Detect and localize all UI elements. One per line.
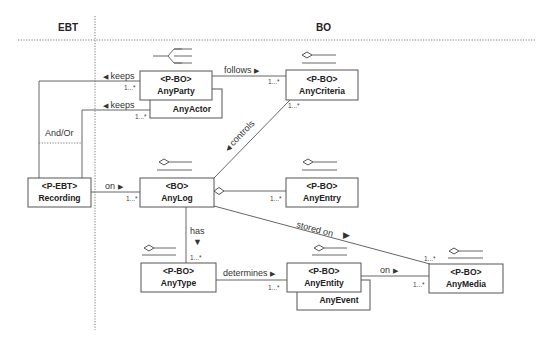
log-aggregation-icon (157, 159, 192, 170)
class-any-criteria[interactable]: <P-BO> AnyCriteria (286, 70, 358, 100)
class-any-type[interactable]: <P-BO> AnyType (141, 263, 216, 292)
svg-text:AnyCriteria: AnyCriteria (299, 86, 345, 96)
controls-label: ◀ controls (222, 118, 257, 153)
assoc-keeps-actor-line (82, 110, 150, 178)
svg-text:AnyParty: AnyParty (157, 86, 195, 96)
media-aggregation-icon (448, 248, 483, 258)
svg-text:Recording: Recording (38, 193, 80, 203)
svg-text:<P-EBT>: <P-EBT> (42, 181, 77, 191)
aggregation-diamond-icon (214, 188, 224, 195)
class-any-log[interactable]: <BO> AnyLog (140, 178, 214, 207)
svg-text:AnyEvent: AnyEvent (319, 295, 358, 305)
lane-label-ebt: EBT (58, 22, 78, 33)
svg-text:<BO>: <BO> (166, 181, 189, 191)
entry-aggregation-icon (302, 159, 337, 170)
keeps-actor-multiplicity: 1...* (135, 113, 147, 120)
has-arrow-icon: ▼ (193, 237, 202, 247)
svg-text:stored on: stored on (295, 219, 334, 238)
svg-text:<P-BO>: <P-BO> (308, 266, 339, 276)
svg-text:<P-BO>: <P-BO> (450, 267, 481, 277)
svg-text:AnyEntry: AnyEntry (303, 193, 341, 203)
keeps-actor-label: ◀ keeps (103, 100, 135, 110)
follows-label: follows ▶ (224, 65, 260, 75)
svg-text:AnyType: AnyType (161, 278, 197, 288)
class-any-entry[interactable]: <P-BO> AnyEntry (286, 178, 358, 207)
svg-text:<P-BO>: <P-BO> (160, 74, 191, 84)
stored-on-arrow-icon: ▶ (343, 230, 350, 240)
log-entry-multiplicity: 1...* (270, 195, 282, 202)
svg-text:AnyActor: AnyActor (173, 104, 212, 114)
stored-on-label: stored on (295, 219, 334, 238)
recording-on-multiplicity: 1...* (126, 195, 138, 202)
has-multiplicity: 1...* (190, 254, 202, 261)
has-label: has (190, 226, 205, 236)
controls-multiplicity: 1...* (288, 102, 300, 109)
class-any-media[interactable]: <P-BO> AnyMedia (429, 264, 503, 293)
and-or-label: And/Or (45, 128, 74, 138)
class-recording[interactable]: <P-EBT> Recording (28, 178, 91, 207)
svg-text:AnyEntity: AnyEntity (304, 278, 344, 288)
type-aggregation-icon (142, 245, 176, 255)
class-any-entity[interactable]: <P-BO> AnyEntity (287, 263, 361, 292)
determines-multiplicity: 1...* (268, 284, 280, 291)
stored-on-multiplicity: 1...* (424, 255, 436, 262)
keeps-party-multiplicity: 1...* (124, 84, 136, 91)
criteria-aggregation-icon (302, 52, 336, 63)
recording-on-label: on ▶ (105, 181, 124, 191)
party-role-icon (153, 49, 192, 63)
follows-multiplicity: 1...* (268, 78, 280, 85)
svg-text:AnyLog: AnyLog (161, 193, 193, 203)
svg-text:<P-BO>: <P-BO> (163, 266, 194, 276)
svg-text:◀ controls: ◀ controls (222, 118, 257, 153)
svg-text:AnyMedia: AnyMedia (446, 279, 486, 289)
entity-on-label: on ▶ (380, 265, 399, 275)
uml-diagram: EBT BO ◀ keeps 1...* ◀ keeps 1...* And/O… (0, 0, 536, 346)
svg-text:<P-BO>: <P-BO> (306, 181, 337, 191)
class-any-party[interactable]: <P-BO> AnyParty (140, 71, 212, 100)
entity-aggregation-icon (312, 245, 347, 255)
assoc-controls-line (214, 100, 290, 178)
determines-label: determines ▶ (223, 268, 276, 278)
lane-label-bo: BO (316, 22, 331, 33)
svg-text:<P-BO>: <P-BO> (306, 74, 337, 84)
keeps-party-label: ◀ keeps (103, 71, 135, 81)
entity-on-multiplicity: 1...* (413, 281, 425, 288)
